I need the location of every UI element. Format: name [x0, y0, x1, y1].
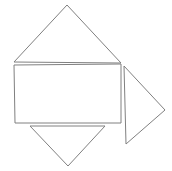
- geometric-figure-canvas: [0, 0, 172, 171]
